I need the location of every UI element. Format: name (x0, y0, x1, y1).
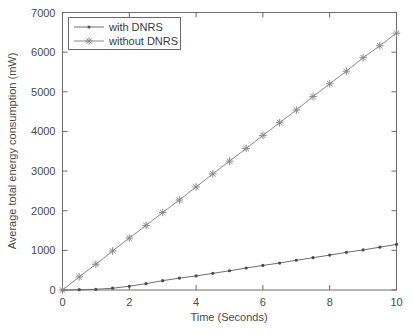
data-point-marker (111, 287, 114, 290)
y-tick-label: 2000 (31, 205, 55, 217)
data-point-star-marker (359, 54, 367, 62)
data-point-marker (161, 279, 164, 282)
data-point-marker (178, 277, 181, 280)
chart-figure: 01000200030004000500060007000 0246810 Ti… (0, 0, 413, 335)
data-point-marker (228, 269, 231, 272)
data-point-marker (295, 259, 298, 262)
data-point-marker (195, 274, 198, 277)
y-tick-label: 1000 (31, 244, 55, 256)
data-point-star-marker (343, 67, 351, 75)
x-tick-label: 4 (193, 296, 199, 308)
data-point-star-marker (276, 119, 284, 127)
legend-dot-marker-icon (88, 26, 91, 29)
data-point-marker (278, 261, 281, 264)
x-tick-label: 8 (327, 296, 333, 308)
data-point-marker (328, 254, 331, 257)
data-point-marker (211, 272, 214, 275)
y-tick-label: 6000 (31, 46, 55, 58)
data-point-marker (362, 248, 365, 251)
figure-background (0, 0, 413, 335)
data-point-star-marker (326, 80, 334, 88)
data-point-star-marker (92, 260, 100, 268)
line-chart-canvas: 01000200030004000500060007000 0246810 Ti… (0, 0, 413, 335)
data-point-star-marker (259, 132, 267, 140)
data-point-star-marker (376, 42, 384, 50)
data-point-marker (261, 264, 264, 267)
y-tick-label: 7000 (31, 7, 55, 19)
data-point-star-marker (176, 196, 184, 204)
legend-label-without-dnrs: without DNRS (108, 35, 178, 47)
data-point-marker (378, 246, 381, 249)
data-point-marker (78, 288, 81, 291)
y-tick-label: 5000 (31, 86, 55, 98)
y-axis-title: Average total energy consumption (mW) (6, 53, 18, 250)
data-point-star-marker (242, 145, 250, 153)
data-point-marker (245, 266, 248, 269)
data-point-marker (94, 288, 97, 291)
data-point-star-marker (109, 247, 117, 255)
data-point-star-marker (126, 234, 134, 242)
x-tick-label: 0 (59, 296, 65, 308)
data-point-star-marker (393, 29, 401, 37)
data-point-star-marker (309, 93, 317, 101)
x-tick-label: 2 (126, 296, 132, 308)
chart-legend[interactable]: with DNRS without DNRS (69, 18, 181, 50)
x-tick-label: 6 (260, 296, 266, 308)
data-point-marker (345, 251, 348, 254)
data-point-star-marker (209, 170, 217, 178)
data-point-marker (311, 256, 314, 259)
y-tick-label: 0 (49, 284, 55, 296)
y-tick-label: 3000 (31, 165, 55, 177)
data-point-star-marker (226, 157, 234, 165)
data-point-star-marker (59, 286, 67, 294)
data-point-star-marker (159, 209, 167, 217)
data-point-star-marker (142, 222, 150, 230)
data-point-star-marker (293, 106, 301, 114)
legend-star-marker-icon (85, 37, 93, 45)
data-point-star-marker (192, 183, 200, 191)
data-point-marker (128, 285, 131, 288)
data-point-marker (144, 282, 147, 285)
x-tick-label: 10 (390, 296, 402, 308)
y-tick-label: 4000 (31, 125, 55, 137)
x-axis-title: Time (Seconds) (190, 311, 267, 323)
data-point-marker (395, 243, 398, 246)
legend-label-with-dnrs: with DNRS (108, 21, 163, 33)
data-point-star-marker (75, 273, 83, 281)
